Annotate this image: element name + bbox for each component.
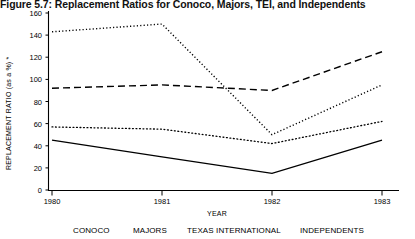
x-axis-tick-labels: 1980 1981 1982 1983	[44, 197, 391, 206]
y-axis-title: REPLACEMENT RATIO (as a %) *	[5, 56, 13, 170]
y-tick-0: 0	[38, 186, 42, 195]
chart-plot-area: 160 140 120 100 80 60 40 20 0 REPLACEMEN…	[0, 0, 415, 239]
x-tick-1982: 1982	[264, 197, 281, 206]
axis-lines	[49, 11, 400, 191]
y-tick-140: 140	[29, 31, 42, 40]
y-tick-160: 160	[29, 9, 42, 18]
y-tick-60: 60	[34, 120, 42, 129]
series-line-independents	[52, 121, 382, 143]
legend-item-majors[interactable]: MAJORS	[133, 226, 167, 235]
x-tick-1983: 1983	[374, 197, 391, 206]
series-line-texas-international	[52, 24, 382, 135]
y-axis-tick-labels: 160 140 120 100 80 60 40 20 0	[29, 9, 42, 195]
figure-container: Figure 5.7: Replacement Ratios for Conoc…	[0, 0, 415, 239]
y-tick-20: 20	[34, 164, 42, 173]
x-axis-title: YEAR	[207, 210, 227, 217]
series-group	[52, 24, 382, 173]
chart-legend: CONOCO MAJORS TEXAS INTERNATIONAL INDEPE…	[73, 226, 364, 235]
legend-item-texas-international[interactable]: TEXAS INTERNATIONAL	[187, 226, 281, 235]
legend-item-conoco[interactable]: CONOCO	[73, 226, 110, 235]
x-tick-1981: 1981	[154, 197, 171, 206]
x-tick-1980: 1980	[44, 197, 61, 206]
series-line-majors	[52, 52, 382, 91]
x-axis-tick-marks	[52, 191, 382, 196]
y-tick-80: 80	[34, 98, 42, 107]
legend-item-independents[interactable]: INDEPENDENTS	[300, 226, 364, 235]
series-line-conoco	[52, 140, 382, 173]
y-tick-120: 120	[29, 53, 42, 62]
y-tick-40: 40	[34, 142, 42, 151]
y-tick-100: 100	[29, 75, 42, 84]
line-chart-svg: 160 140 120 100 80 60 40 20 0 REPLACEMEN…	[0, 0, 415, 239]
